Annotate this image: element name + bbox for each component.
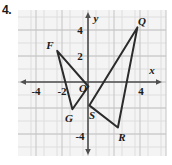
y-tick-label-4: 4 [77, 24, 83, 36]
vertex-label-r: R [117, 131, 125, 143]
vertex-label-s: S [89, 109, 95, 121]
x-tick-label-neg4: -4 [31, 85, 41, 97]
x-axis-label: x [148, 64, 155, 76]
y-tick-label-2: 2 [77, 50, 83, 62]
x-tick-label-4: 4 [138, 85, 144, 97]
x-tick-label-neg2: -2 [57, 85, 67, 97]
y-axis-label: y [92, 12, 99, 24]
vertex-label-g: G [65, 112, 73, 124]
vertex-label-q: Q [138, 15, 146, 27]
vertex-label-f: F [45, 39, 54, 51]
y-tick-label-neg4: -4 [75, 130, 85, 142]
math-problem-figure: 4. [0, 0, 172, 165]
origin-label: O [79, 82, 87, 94]
coordinate-plane: -4 -2 4 4 2 -4 O x y F G S Q R [0, 0, 172, 165]
